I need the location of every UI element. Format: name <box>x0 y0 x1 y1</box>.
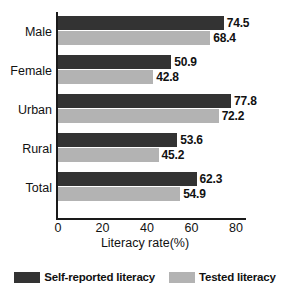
bar-value-urban-self-reported-literacy: 77.8 <box>231 94 257 108</box>
bar-group-rural: 53.645.2 <box>58 133 236 172</box>
bar-value-male-tested-literacy: 68.4 <box>210 31 236 45</box>
bar-track-total-tested-literacy: 54.9 <box>58 187 236 201</box>
bar-value-female-self-reported-literacy: 50.9 <box>171 55 197 69</box>
legend-swatch-self-reported <box>14 272 40 283</box>
x-tick-20: 20 <box>96 221 110 235</box>
y-label-male: Male <box>0 25 52 39</box>
bar-rural-tested-literacy <box>58 148 159 162</box>
bar-track-urban-self-reported-literacy: 77.8 <box>58 94 236 108</box>
bar-value-total-self-reported-literacy: 62.3 <box>197 172 223 186</box>
legend-swatch-tested <box>169 272 195 283</box>
legend-item-self-reported: Self-reported literacy <box>14 271 155 283</box>
bar-group-total: 62.354.9 <box>58 172 236 211</box>
x-tick-60: 60 <box>185 221 199 235</box>
bar-female-tested-literacy <box>58 70 153 84</box>
bar-track-male-tested-literacy: 68.4 <box>58 31 236 45</box>
bar-total-tested-literacy <box>58 187 180 201</box>
bar-value-male-self-reported-literacy: 74.5 <box>224 16 250 30</box>
bar-group-female: 50.942.8 <box>58 55 236 94</box>
legend-item-tested: Tested literacy <box>169 271 276 283</box>
bar-value-rural-tested-literacy: 45.2 <box>159 148 185 162</box>
bar-group-urban: 77.872.2 <box>58 94 236 133</box>
y-label-urban: Urban <box>0 103 52 117</box>
bar-track-female-tested-literacy: 42.8 <box>58 70 236 84</box>
x-tick-0: 0 <box>55 221 62 235</box>
bar-track-rural-tested-literacy: 45.2 <box>58 148 236 162</box>
x-axis-title: Literacy rate(%) <box>0 236 290 250</box>
x-tick-80: 80 <box>229 221 243 235</box>
bar-track-total-self-reported-literacy: 62.3 <box>58 172 236 186</box>
plot-area: 74.568.450.942.877.872.253.645.262.354.9 <box>58 14 236 218</box>
bar-value-rural-self-reported-literacy: 53.6 <box>177 133 203 147</box>
x-axis-tick-labels: 0 20 40 60 80 <box>58 221 236 237</box>
chart-legend: Self-reported literacy Tested literacy <box>0 271 290 283</box>
bar-rural-self-reported-literacy <box>58 133 177 147</box>
legend-label-tested: Tested literacy <box>199 271 276 283</box>
bar-male-tested-literacy <box>58 31 210 45</box>
bar-value-urban-tested-literacy: 72.2 <box>219 109 245 123</box>
x-tick-40: 40 <box>140 221 154 235</box>
literacy-rate-bar-chart: Male Female Urban Rural Total 74.568.450… <box>0 0 290 303</box>
bar-group-male: 74.568.4 <box>58 16 236 55</box>
bar-urban-tested-literacy <box>58 109 219 123</box>
x-axis-line <box>56 218 246 220</box>
y-label-total: Total <box>0 181 52 195</box>
bar-track-urban-tested-literacy: 72.2 <box>58 109 236 123</box>
y-label-rural: Rural <box>0 142 52 156</box>
y-axis-category-labels: Male Female Urban Rural Total <box>0 14 52 218</box>
bar-track-male-self-reported-literacy: 74.5 <box>58 16 236 30</box>
bar-value-female-tested-literacy: 42.8 <box>153 70 179 84</box>
legend-label-self-reported: Self-reported literacy <box>44 271 155 283</box>
bar-female-self-reported-literacy <box>58 55 171 69</box>
bar-total-self-reported-literacy <box>58 172 197 186</box>
bar-value-total-tested-literacy: 54.9 <box>180 187 206 201</box>
bar-male-self-reported-literacy <box>58 16 224 30</box>
bar-track-female-self-reported-literacy: 50.9 <box>58 55 236 69</box>
bar-urban-self-reported-literacy <box>58 94 231 108</box>
y-label-female: Female <box>0 64 52 78</box>
bar-track-rural-self-reported-literacy: 53.6 <box>58 133 236 147</box>
